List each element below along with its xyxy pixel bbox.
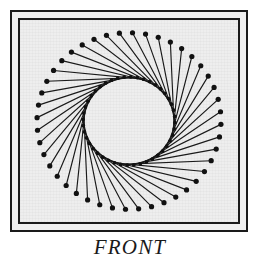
outer-pin-dot [218,122,223,127]
inner-pin-dot [172,108,176,112]
inner-pin-dot [110,78,114,82]
inner-pin-dot [170,102,174,106]
inner-pin-dot [119,163,123,167]
outer-pin-dot [206,74,211,79]
outer-pin-dot [202,169,207,174]
figure-plate: FRONT [0,0,260,261]
outer-pin-dot [37,140,42,145]
inner-pin-dot [122,75,126,79]
inner-pin-dot [150,157,154,161]
inner-pin-dot [135,76,139,80]
inner-pin-dot [81,117,85,121]
outer-pin-dot [136,206,141,211]
outer-pin-dot [97,202,102,207]
inner-pin-dot [153,83,157,87]
inner-pin-dot [83,105,87,109]
outer-pin-dot [51,68,56,73]
inner-pin-dot [116,76,120,80]
inner-pin-dot [91,147,95,151]
outer-pin-dot [130,30,135,35]
outer-pin-dot [123,207,128,212]
inner-pin-dot [145,160,149,164]
inner-pin-dot [142,77,146,81]
inner-pin-dot [112,161,116,165]
inner-pin-dot [163,91,167,95]
inner-pin-dot [98,85,102,89]
inner-pin-dot [104,81,108,85]
outer-pin-dot [143,32,148,37]
inner-pin-dot [148,80,152,84]
outer-pin-dot [85,197,90,202]
inner-pin-dot [82,111,86,115]
inner-pin-dot [87,142,91,146]
outer-pin-dot [209,158,214,163]
string-art-diagram [20,20,238,222]
outer-pin-dot [69,50,74,55]
outer-pin-dot [47,163,52,168]
outer-pin-dot [35,128,40,133]
outer-pin-dot [168,40,173,45]
inner-pin-dot [85,136,89,140]
outer-pin-dot [55,174,60,179]
inner-pin-dot [132,163,136,167]
inner-pin-dot [167,97,171,101]
outer-pin-dot [156,35,161,40]
figure-caption: FRONT [0,234,260,260]
outer-pin-dot [161,200,166,205]
inner-pin-dot [89,94,93,98]
outer-pin-dot [34,115,39,120]
outer-pin-dot [194,179,199,184]
outer-pin-dot [189,54,194,59]
outer-pin-dot [39,90,44,95]
outer-pin-dot [74,191,79,196]
inner-pin-dot [86,99,90,103]
outer-pin-dot [117,31,122,36]
inner-pin-dot [94,89,98,93]
inner-pin-dot [129,75,133,79]
inner-pin-dot [168,139,172,143]
outer-pin-dot [218,109,223,114]
outer-pin-dot [149,204,154,209]
thread-group [37,33,221,210]
inner-pin-dot [172,127,176,131]
inner-pin-dot [83,130,87,134]
outer-pin-dot [104,33,109,38]
inner-pin-dot [96,151,100,155]
outer-pin-dot [184,187,189,192]
inner-pin-dot [125,163,129,167]
outer-pin-dot [91,37,96,42]
outer-pin-dot [80,42,85,47]
outer-pin-dot [110,205,115,210]
inner-pin-dot [173,121,177,125]
outer-pin-dot [59,58,64,63]
inner-pin-dot [81,124,85,128]
outer-pin-dot [214,146,219,151]
inner-pin-dot [156,154,160,158]
inner-pin-dot [138,162,142,166]
outer-pin-dot [216,97,221,102]
inner-pin-dot [165,144,169,148]
outer-pin-dot [173,194,178,199]
inner-pin-dot [161,149,165,153]
inner-pin-dot [171,133,175,137]
inner-pin-dot [106,159,110,163]
outer-pin-dot [36,103,41,108]
outer-pin-dot [179,46,184,51]
inner-pin-dot [101,155,105,159]
inner-pin-dot [173,114,177,118]
outer-pin-dot [41,152,46,157]
outer-pin-dot [211,85,216,90]
outer-pin-dot [44,79,49,84]
inner-pin-dot [159,87,163,91]
outer-pin-dot [64,183,69,188]
outer-pin-dot [198,63,203,68]
outer-pin-dot [217,134,222,139]
